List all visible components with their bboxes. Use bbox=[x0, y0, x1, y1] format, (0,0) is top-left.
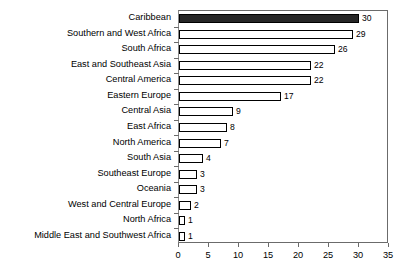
bar-row: 7 bbox=[179, 136, 389, 151]
category-label: Caribbean bbox=[129, 10, 171, 25]
bar[interactable] bbox=[179, 45, 335, 54]
category-tick-mark bbox=[174, 58, 179, 59]
bar-row: 30 bbox=[179, 11, 389, 26]
category-label: West and Central Europe bbox=[68, 197, 171, 212]
value-tick-mark bbox=[238, 243, 239, 247]
value-tick-mark bbox=[388, 243, 389, 247]
category-label: Southern and West Africa bbox=[67, 26, 171, 41]
bar-row: 3 bbox=[179, 167, 389, 182]
value-tick-mark bbox=[298, 243, 299, 247]
bar[interactable] bbox=[179, 154, 203, 163]
bar-row: 22 bbox=[179, 58, 389, 73]
value-tick-mark bbox=[328, 243, 329, 247]
value-tick-label: 35 bbox=[383, 249, 393, 261]
category-tick-mark bbox=[174, 89, 179, 90]
category-tick-mark bbox=[174, 104, 179, 105]
bar-value-label: 1 bbox=[188, 231, 193, 242]
bar-value-label: 22 bbox=[314, 60, 324, 71]
bar-row: 1 bbox=[179, 229, 389, 244]
plot-area: 302926222217987433211 bbox=[178, 10, 388, 243]
category-tick-mark bbox=[174, 27, 179, 28]
value-tick-mark bbox=[208, 243, 209, 247]
value-tick-label: 5 bbox=[205, 249, 210, 261]
category-tick-mark bbox=[174, 166, 179, 167]
bar-row: 29 bbox=[179, 27, 389, 42]
bar-row: 1 bbox=[179, 213, 389, 228]
bar[interactable] bbox=[179, 232, 185, 241]
bar-row: 4 bbox=[179, 151, 389, 166]
bar[interactable] bbox=[179, 92, 281, 101]
category-tick-mark bbox=[174, 73, 179, 74]
category-label: Middle East and Southwest Africa bbox=[34, 228, 171, 243]
bar-value-label: 1 bbox=[188, 215, 193, 226]
category-label: Eastern Europe bbox=[107, 88, 171, 103]
bar-row: 26 bbox=[179, 42, 389, 57]
bar-row: 3 bbox=[179, 182, 389, 197]
bar-row: 2 bbox=[179, 198, 389, 213]
bar-value-label: 22 bbox=[314, 75, 324, 86]
bar-value-label: 30 bbox=[362, 13, 372, 24]
value-axis: 05101520253035 bbox=[178, 243, 388, 271]
bar[interactable] bbox=[179, 139, 221, 148]
bar-value-label: 4 bbox=[206, 153, 211, 164]
bar[interactable] bbox=[179, 170, 197, 179]
category-label: East Africa bbox=[127, 119, 171, 134]
bar[interactable] bbox=[179, 107, 233, 116]
bar[interactable] bbox=[179, 201, 191, 210]
category-label: North Africa bbox=[123, 212, 171, 227]
value-tick-label: 0 bbox=[175, 249, 180, 261]
bar[interactable] bbox=[179, 185, 197, 194]
bar-value-label: 3 bbox=[200, 184, 205, 195]
value-tick-label: 30 bbox=[353, 249, 363, 261]
value-tick-label: 10 bbox=[233, 249, 243, 261]
bar[interactable] bbox=[179, 123, 227, 132]
category-label: Oceania bbox=[137, 181, 171, 196]
bar-value-label: 3 bbox=[200, 169, 205, 180]
bar-value-label: 17 bbox=[284, 91, 294, 102]
bar-value-label: 8 bbox=[230, 122, 235, 133]
category-label: North America bbox=[113, 135, 171, 150]
bar[interactable] bbox=[179, 76, 311, 85]
value-tick-mark bbox=[358, 243, 359, 247]
bar-value-label: 26 bbox=[338, 44, 348, 55]
bar-value-label: 29 bbox=[356, 29, 366, 40]
category-tick-mark bbox=[174, 42, 179, 43]
bar[interactable] bbox=[179, 30, 353, 39]
bar[interactable] bbox=[179, 61, 311, 70]
category-tick-mark bbox=[174, 151, 179, 152]
category-tick-mark bbox=[174, 120, 179, 121]
value-tick-mark bbox=[178, 243, 179, 247]
category-label: Central Asia bbox=[121, 103, 171, 118]
bar-row: 17 bbox=[179, 89, 389, 104]
bar[interactable] bbox=[179, 14, 359, 23]
bar-row: 9 bbox=[179, 104, 389, 119]
category-label: Southeast Europe bbox=[97, 166, 171, 181]
value-tick-mark bbox=[268, 243, 269, 247]
bar-chart: CaribbeanSouthern and West AfricaSouth A… bbox=[0, 0, 406, 273]
category-tick-mark bbox=[174, 135, 179, 136]
category-label: Central America bbox=[106, 72, 171, 87]
category-tick-mark bbox=[174, 213, 179, 214]
category-tick-mark bbox=[174, 228, 179, 229]
category-tick-mark bbox=[174, 182, 179, 183]
bar[interactable] bbox=[179, 216, 185, 225]
bar-value-label: 2 bbox=[194, 200, 199, 211]
value-tick-label: 15 bbox=[263, 249, 273, 261]
bar-row: 8 bbox=[179, 120, 389, 135]
category-tick-mark bbox=[174, 197, 179, 198]
category-label: South Asia bbox=[127, 150, 171, 165]
category-label: South Africa bbox=[121, 41, 171, 56]
value-tick-label: 20 bbox=[293, 249, 303, 261]
bar-row: 22 bbox=[179, 73, 389, 88]
bar-value-label: 7 bbox=[224, 138, 229, 149]
category-axis-labels: CaribbeanSouthern and West AfricaSouth A… bbox=[0, 10, 174, 243]
bar-value-label: 9 bbox=[236, 106, 241, 117]
category-label: East and Southeast Asia bbox=[71, 57, 171, 72]
value-tick-label: 25 bbox=[323, 249, 333, 261]
